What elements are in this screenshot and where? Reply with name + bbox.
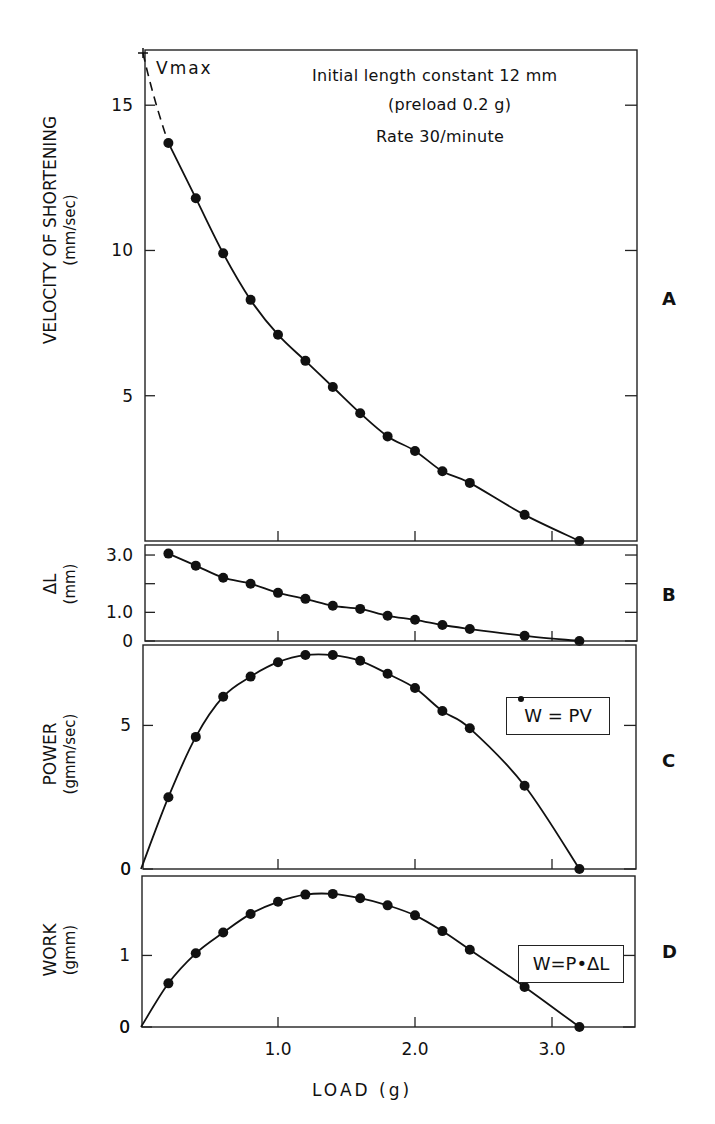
data-point bbox=[574, 864, 584, 874]
series-line bbox=[141, 894, 579, 1027]
data-point bbox=[520, 982, 530, 992]
data-point bbox=[191, 193, 201, 203]
ylabel-a-line2: (mm/sec) bbox=[60, 80, 80, 380]
data-point bbox=[163, 978, 173, 988]
equation-box-power: W = PV bbox=[506, 697, 610, 735]
ylabel-c: POWER (gmm/sec) bbox=[40, 674, 80, 834]
data-point bbox=[520, 631, 530, 641]
ylabel-a-line1: VELOCITY OF SHORTENING bbox=[40, 80, 60, 380]
data-point bbox=[246, 295, 256, 305]
condition-line-2: (preload 0.2 g) bbox=[388, 95, 511, 114]
ytick-label-zero: 0 bbox=[119, 1017, 130, 1037]
ytick-label: 3.0 bbox=[106, 545, 133, 565]
data-point bbox=[383, 900, 393, 910]
xtick-label: 2.0 bbox=[401, 1039, 428, 1059]
ylabel-b-line1: ΔL bbox=[40, 544, 60, 624]
data-point bbox=[191, 948, 201, 958]
figure: 5101501.03.00500101.02.03.0 Vmax Initial… bbox=[0, 0, 715, 1124]
data-point bbox=[163, 792, 173, 802]
data-point bbox=[163, 138, 173, 148]
data-point bbox=[410, 446, 420, 456]
data-point bbox=[383, 431, 393, 441]
ytick-label: 10 bbox=[111, 240, 133, 260]
data-point bbox=[574, 1022, 584, 1032]
data-point bbox=[520, 510, 530, 520]
data-point bbox=[300, 650, 310, 660]
data-point bbox=[218, 692, 228, 702]
xlabel: LOAD (g) bbox=[312, 1080, 412, 1100]
panel-letter-c: C bbox=[662, 750, 675, 771]
data-point bbox=[355, 893, 365, 903]
ytick-label: 15 bbox=[111, 95, 133, 115]
panel-frame bbox=[145, 545, 637, 641]
data-point bbox=[218, 928, 228, 938]
data-point bbox=[328, 601, 338, 611]
panel-frame bbox=[143, 645, 636, 869]
data-point bbox=[300, 594, 310, 604]
data-point bbox=[328, 650, 338, 660]
w-dot-icon bbox=[518, 696, 524, 702]
data-point bbox=[437, 926, 447, 936]
data-point bbox=[328, 382, 338, 392]
panel-letter-b: B bbox=[662, 584, 676, 605]
vmax-label: Vmax bbox=[156, 58, 213, 78]
data-point bbox=[383, 669, 393, 679]
data-point bbox=[191, 732, 201, 742]
data-point bbox=[437, 620, 447, 630]
data-point bbox=[163, 549, 173, 559]
data-point bbox=[355, 604, 365, 614]
panel-b: 01.03.0 bbox=[106, 545, 637, 651]
data-point bbox=[410, 683, 420, 693]
data-point bbox=[273, 588, 283, 598]
data-point bbox=[246, 672, 256, 682]
data-point bbox=[520, 781, 530, 791]
equation-power-text: W = PV bbox=[524, 705, 592, 726]
data-point bbox=[355, 408, 365, 418]
data-point bbox=[410, 910, 420, 920]
data-point bbox=[273, 657, 283, 667]
ytick-label: 5 bbox=[122, 386, 133, 406]
ylabel-d-line1: WORK bbox=[40, 900, 60, 1000]
ylabel-d-line2: (gmm) bbox=[60, 900, 80, 1000]
data-point bbox=[355, 656, 365, 666]
data-point bbox=[246, 579, 256, 589]
data-point bbox=[328, 889, 338, 899]
ytick-label: 5 bbox=[120, 715, 131, 735]
ylabel-c-line1: POWER bbox=[40, 674, 60, 834]
data-point bbox=[191, 561, 201, 571]
ytick-label: 1 bbox=[119, 945, 130, 965]
data-point bbox=[218, 573, 228, 583]
data-point bbox=[300, 890, 310, 900]
ylabel-d: WORK (gmm) bbox=[40, 900, 80, 1000]
ytick-label: 0 bbox=[122, 631, 133, 651]
ytick-label-zero: 0 bbox=[120, 859, 131, 879]
panel-letter-d: D bbox=[662, 941, 677, 962]
data-point bbox=[383, 611, 393, 621]
equation-box-work: W=P•ΔL bbox=[518, 945, 624, 983]
data-point bbox=[465, 624, 475, 634]
data-point bbox=[218, 248, 228, 258]
data-point bbox=[437, 466, 447, 476]
ylabel-b-line2: (mm) bbox=[60, 544, 80, 624]
data-point bbox=[410, 615, 420, 625]
equation-work-text: W=P•ΔL bbox=[533, 953, 610, 974]
xtick-label: 3.0 bbox=[538, 1039, 565, 1059]
data-point bbox=[465, 478, 475, 488]
data-point bbox=[300, 356, 310, 366]
panel-a: 51015 bbox=[111, 48, 637, 546]
data-point bbox=[465, 945, 475, 955]
xtick-label: 1.0 bbox=[264, 1039, 291, 1059]
data-point bbox=[465, 723, 475, 733]
panel-frame bbox=[145, 50, 637, 541]
series-line bbox=[168, 143, 579, 541]
data-point bbox=[246, 909, 256, 919]
condition-line-1: Initial length constant 12 mm bbox=[312, 66, 557, 85]
panel-letter-a: A bbox=[662, 288, 676, 309]
ytick-label: 1.0 bbox=[106, 602, 133, 622]
data-point bbox=[273, 330, 283, 340]
ylabel-c-line2: (gmm/sec) bbox=[60, 674, 80, 834]
data-point bbox=[273, 897, 283, 907]
panel-c: 050 bbox=[120, 645, 636, 879]
series-line bbox=[168, 554, 579, 641]
series-line bbox=[141, 654, 579, 869]
